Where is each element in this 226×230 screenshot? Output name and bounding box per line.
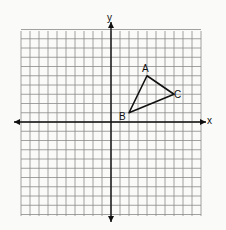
coordinate-plane: y x A B C bbox=[0, 0, 226, 230]
grid-plot bbox=[0, 0, 226, 230]
vertex-label-c: C bbox=[174, 90, 181, 100]
y-axis-label: y bbox=[107, 13, 112, 23]
vertex-label-b: B bbox=[119, 112, 126, 122]
x-axis-label: x bbox=[207, 116, 212, 126]
vertex-label-a: A bbox=[142, 64, 149, 74]
